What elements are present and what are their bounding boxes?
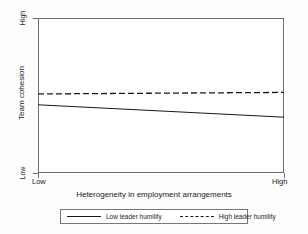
y-axis-title: Team cohesion — [17, 48, 27, 138]
legend-swatch-solid-line-icon — [67, 213, 101, 220]
legend-label-low-leader-humility: Low leader humility — [106, 213, 162, 221]
legend-label-high-leader-humility: High leader humility — [219, 213, 276, 221]
x-axis-title: Heterogeneity in employment arrangements — [0, 190, 308, 200]
y-axis-label-high: High — [19, 7, 27, 29]
y-axis-label-low: Low — [19, 162, 27, 184]
line-high-leader-humility — [38, 92, 284, 94]
chart-figure: High Low Low High Team cohesion Heteroge… — [0, 0, 308, 234]
line-low-leader-humility — [38, 105, 284, 117]
x-axis-label-low: Low — [32, 177, 46, 186]
legend-item-high-leader-humility[interactable]: High leader humility — [180, 210, 276, 223]
legend-swatch-dashed-line-icon — [180, 213, 214, 220]
x-axis-label-high: High — [272, 177, 287, 186]
chart-legend: Low leader humility High leader humility — [60, 209, 248, 224]
data-series-group — [38, 18, 284, 173]
legend-item-low-leader-humility[interactable]: Low leader humility — [67, 210, 162, 223]
